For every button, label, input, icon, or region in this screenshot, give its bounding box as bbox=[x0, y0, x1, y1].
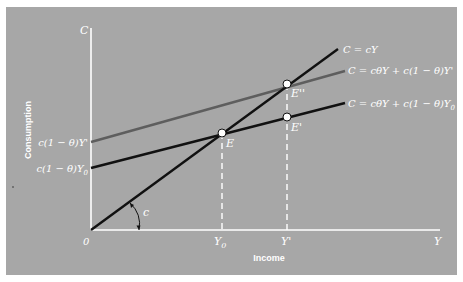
speck-mark bbox=[12, 186, 14, 188]
consumption-income-diagram: c E E'' E' C Y 0 Y0 Y' c(1 − θ)Y' c(1 − … bbox=[0, 0, 463, 282]
point-e bbox=[218, 129, 226, 137]
y-intercept-upper-label: c(1 − θ)Y' bbox=[38, 137, 88, 148]
x-axis-symbol: Y bbox=[434, 235, 443, 248]
line-upper-label: C = cθY + c(1 − θ)Y' bbox=[348, 65, 453, 76]
point-e-double-prime bbox=[283, 80, 291, 88]
point-e-prime-label: E' bbox=[290, 121, 302, 134]
x-tick-yprime: Y' bbox=[281, 235, 291, 248]
point-e-double-prime-label: E'' bbox=[290, 87, 305, 100]
point-e-label: E bbox=[225, 137, 234, 150]
y-axis-symbol: C bbox=[80, 24, 89, 37]
line-c-equals-cy bbox=[91, 49, 338, 230]
y-intercept-lower-label: c(1 − θ)Y0 bbox=[36, 163, 88, 177]
x-tick-y0: Y0 bbox=[214, 235, 226, 250]
origin-label: 0 bbox=[83, 236, 90, 247]
slope-label: c bbox=[143, 206, 149, 219]
point-e-prime bbox=[283, 113, 291, 121]
x-axis-title: Income bbox=[253, 253, 285, 263]
line-cy-label: C = cY bbox=[343, 44, 379, 55]
y-axis-title: Consumption bbox=[23, 101, 33, 159]
line-lower-label: C = cθY + c(1 − θ)Y0 bbox=[348, 98, 455, 112]
